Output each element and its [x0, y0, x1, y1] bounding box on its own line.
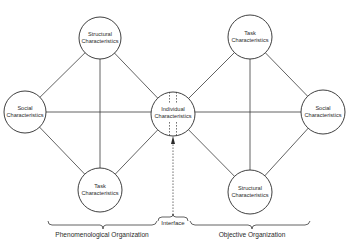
svg-text:Objective Organization: Objective Organization — [219, 231, 286, 239]
svg-text:Characteristics: Characteristics — [155, 113, 192, 119]
svg-text:Individual: Individual — [161, 106, 185, 112]
svg-text:Characteristics: Characteristics — [232, 192, 269, 198]
svg-text:Characteristics: Characteristics — [82, 38, 119, 44]
interface-brace: Interface — [158, 214, 188, 226]
node-right-structural: Structural Characteristics — [228, 170, 272, 214]
organization-diagram: Structural Characteristics Social Charac… — [0, 0, 349, 242]
svg-text:Characteristics: Characteristics — [7, 112, 44, 118]
svg-text:Social: Social — [17, 105, 32, 111]
svg-text:Task: Task — [244, 30, 256, 36]
svg-text:Characteristics: Characteristics — [82, 190, 119, 196]
node-right-social: Social Characteristics — [301, 90, 345, 134]
arrowhead-icon — [171, 136, 175, 144]
node-center-individual: Individual Characteristics — [151, 92, 195, 136]
svg-text:Task: Task — [94, 183, 106, 189]
interface-arrow — [171, 136, 175, 215]
objective-brace: Objective Organization — [190, 221, 310, 239]
svg-text:Characteristics: Characteristics — [232, 37, 269, 43]
node-left-task: Task Characteristics — [78, 168, 122, 212]
svg-text:Structural: Structural — [88, 31, 112, 37]
svg-text:Phenomenological Organization: Phenomenological Organization — [55, 231, 149, 239]
phenomenological-brace: Phenomenological Organization — [48, 221, 157, 239]
right-diamond-edges — [173, 37, 323, 192]
node-left-social: Social Characteristics — [4, 91, 46, 133]
node-right-task: Task Characteristics — [228, 15, 272, 59]
svg-text:Social: Social — [315, 105, 330, 111]
node-left-structural: Structural Characteristics — [79, 17, 121, 59]
svg-text:Structural: Structural — [238, 185, 262, 191]
svg-text:Interface: Interface — [161, 220, 185, 226]
svg-text:Characteristics: Characteristics — [305, 112, 342, 118]
